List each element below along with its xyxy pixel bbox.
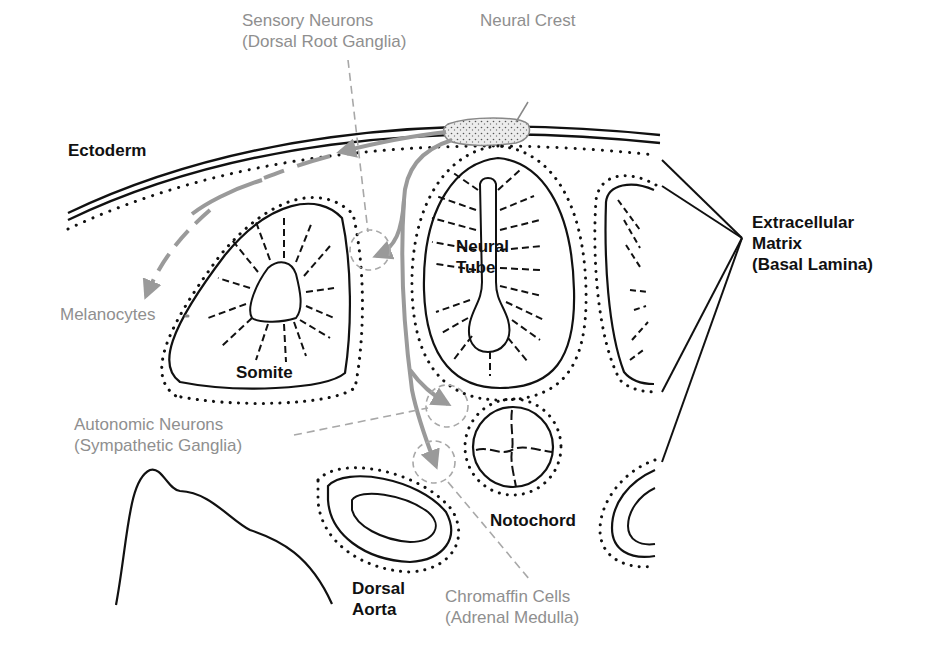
- neural-crest-migration-diagram: [0, 0, 928, 656]
- label-melanocytes: Melanocytes: [60, 304, 155, 325]
- label-neural-crest: Neural Crest: [480, 10, 575, 31]
- sympathetic-ganglion-target: [426, 385, 468, 427]
- somite-right-partial: [595, 176, 656, 392]
- dorsal-aorta: [318, 468, 459, 572]
- label-sensory-neurons: Sensory Neurons (Dorsal Root Ganglia): [242, 10, 406, 52]
- label-somite: Somite: [236, 362, 293, 383]
- label-neural-tube: Neural Tube: [456, 236, 509, 278]
- right-vessel-partial: [600, 460, 655, 567]
- label-notochord: Notochord: [490, 510, 576, 531]
- label-dorsal-aorta: Dorsal Aorta: [352, 578, 405, 620]
- label-chromaffin-cells: Chromaffin Cells (Adrenal Medulla): [445, 586, 579, 628]
- label-autonomic-neurons: Autonomic Neurons (Sympathetic Ganglia): [74, 414, 242, 456]
- ectoderm: [68, 126, 660, 229]
- body-wall-outline: [116, 470, 332, 605]
- neural-crest-leader: [516, 102, 528, 122]
- label-ectoderm: Ectoderm: [68, 140, 146, 161]
- label-extracellular-matrix: Extracellular Matrix (Basal Lamina): [752, 212, 873, 275]
- ecm-leader-lines: [662, 160, 742, 462]
- notochord: [465, 399, 561, 495]
